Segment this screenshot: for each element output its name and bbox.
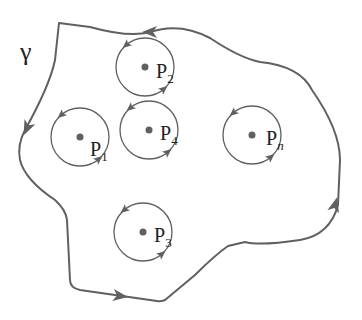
pole-2: P2	[116, 38, 174, 96]
contour-diagram: γ P1P2P4P3Pn	[0, 0, 362, 320]
arrow-icon	[327, 196, 342, 214]
pole-label: P4	[160, 122, 178, 148]
pole-dot	[146, 127, 153, 134]
pole-dot	[77, 134, 84, 141]
pole-label: P3	[154, 224, 172, 250]
pole-3: P3	[114, 203, 172, 261]
pole-4: P4	[120, 101, 178, 159]
gamma-label: γ	[19, 37, 32, 66]
pole-dot	[140, 229, 147, 236]
arrow-icon	[142, 26, 157, 38]
arrow-icon	[18, 119, 35, 138]
pole-n: Pn	[223, 106, 284, 164]
pole-dot	[249, 132, 256, 139]
pole-label: P2	[156, 60, 174, 86]
pole-dot	[142, 64, 149, 71]
contour-direction-arrows	[18, 26, 343, 303]
pole-1: P1	[51, 108, 109, 166]
poles-group: P1P2P4P3Pn	[51, 38, 284, 261]
contour-gamma	[19, 23, 340, 301]
